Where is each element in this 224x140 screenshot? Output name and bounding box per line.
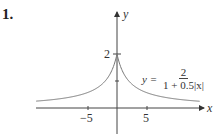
y-tick-label-2: 2 xyxy=(104,47,110,62)
y-axis-label: y xyxy=(123,7,128,22)
equation-numerator: 2 xyxy=(179,66,189,79)
x-tick-label-neg5: −5 xyxy=(80,111,93,126)
equation-lhs: y = xyxy=(142,73,157,85)
equation-annotation: y = 2 1 + 0.5|x| xyxy=(142,66,206,92)
x-axis-label: x xyxy=(207,101,212,116)
equation-fraction: 2 1 + 0.5|x| xyxy=(161,66,206,92)
equation-denominator: 1 + 0.5|x| xyxy=(161,79,206,92)
x-tick-label-5: 5 xyxy=(143,111,149,126)
